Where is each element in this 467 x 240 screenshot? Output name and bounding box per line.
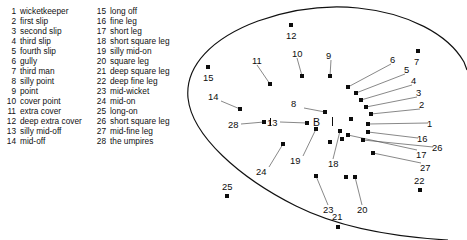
fielder-marker-13 bbox=[305, 121, 309, 125]
legend-item: 10cover point bbox=[3, 96, 82, 106]
leader-line-4 bbox=[361, 85, 412, 100]
legend-item-number: 20 bbox=[93, 56, 106, 66]
position-number-label-3: 3 bbox=[416, 88, 421, 97]
legend-item: 23mid-wicket bbox=[93, 86, 170, 96]
legend-item: 6gully bbox=[3, 56, 82, 66]
legend-item-label: short leg bbox=[106, 26, 142, 36]
position-number-label-8: 8 bbox=[291, 99, 296, 108]
legend-item-label: mid-wicket bbox=[106, 86, 149, 96]
legend-item: 9point bbox=[3, 86, 82, 96]
legend-item: 5fourth slip bbox=[3, 46, 82, 56]
legend-item-number: 9 bbox=[3, 86, 16, 96]
legend-item-number: 2 bbox=[3, 16, 16, 26]
position-number-label-1: 1 bbox=[427, 119, 432, 128]
leader-line-28 bbox=[241, 122, 264, 124]
legend-item: 14mid-off bbox=[3, 136, 82, 146]
legend-item-label: cover point bbox=[16, 96, 61, 106]
legend-item-label: mid-off bbox=[16, 136, 45, 146]
legend-item-label: deep extra cover bbox=[16, 116, 82, 126]
legend-item: 13silly mid-off bbox=[3, 126, 82, 136]
legend-item: 20square leg bbox=[93, 56, 170, 66]
legend-item-label: mid-on bbox=[106, 96, 135, 106]
legend-item-number: 23 bbox=[93, 86, 106, 96]
leader-line-18 bbox=[333, 131, 340, 159]
legend-item-number: 6 bbox=[3, 56, 16, 66]
leader-line-1 bbox=[368, 123, 428, 124]
leader-line-6 bbox=[348, 64, 391, 87]
position-number-label-26: 26 bbox=[432, 143, 442, 152]
cricket-fielding-positions-figure: 1wicketkeeper2first slip3second slip4thi… bbox=[0, 0, 467, 240]
leader-line-5 bbox=[356, 74, 405, 93]
fielder-marker-10 bbox=[300, 74, 304, 78]
position-number-label-27: 27 bbox=[420, 163, 430, 172]
legend-item-number: 22 bbox=[93, 76, 106, 86]
position-number-label-25: 25 bbox=[222, 182, 232, 191]
legend-item: 12deep extra cover bbox=[3, 116, 82, 126]
stumps-icon bbox=[332, 117, 333, 126]
fielder-marker-16 bbox=[366, 130, 370, 134]
legend-item-number: 19 bbox=[93, 46, 106, 56]
position-number-label-19: 19 bbox=[290, 156, 300, 165]
legend-item: 7third man bbox=[3, 66, 82, 76]
position-number-label-17: 17 bbox=[416, 150, 426, 159]
fielder-marker-23 bbox=[314, 174, 318, 178]
position-number-label-18: 18 bbox=[328, 159, 338, 168]
legend-item: 11extra cover bbox=[3, 106, 82, 116]
leader-line-16 bbox=[368, 132, 418, 138]
legend-item-label: third man bbox=[16, 66, 55, 76]
fielder-marker-25 bbox=[225, 194, 229, 198]
legend-item-label: wicketkeeper bbox=[16, 6, 68, 16]
leader-line-19 bbox=[303, 129, 316, 156]
legend-item-number: 24 bbox=[93, 96, 106, 106]
fielder-marker-15 bbox=[206, 65, 210, 69]
legend-item-label: second slip bbox=[16, 26, 62, 36]
legend-item-number: 13 bbox=[3, 126, 16, 136]
leader-line-8 bbox=[304, 108, 325, 112]
fielder-marker-22 bbox=[418, 188, 422, 192]
legend-item-number: 25 bbox=[93, 106, 106, 116]
marker-umpire-bowler-end bbox=[340, 137, 344, 141]
legend-item: 24mid-on bbox=[93, 96, 170, 106]
fielder-marker-24 bbox=[281, 142, 285, 146]
position-number-label-28: 28 bbox=[228, 120, 238, 129]
legend-item-number: 26 bbox=[93, 116, 106, 126]
legend-item-label: fine leg bbox=[106, 16, 137, 26]
legend-item: 2first slip bbox=[3, 16, 82, 26]
legend-item-number: 14 bbox=[3, 136, 16, 146]
legend-item-number: 21 bbox=[93, 66, 106, 76]
fielder-marker-14 bbox=[238, 107, 242, 111]
leader-line-24 bbox=[269, 144, 283, 167]
batsman-label: B bbox=[313, 117, 320, 128]
leader-line-27 bbox=[373, 153, 421, 163]
legend-item-label: silly mid-on bbox=[106, 46, 152, 56]
position-number-label-21: 21 bbox=[332, 212, 342, 221]
legend-item-number: 4 bbox=[3, 36, 16, 46]
legend-item-number: 12 bbox=[3, 116, 16, 126]
legend-item-label: mid-fine leg bbox=[106, 126, 153, 136]
leader-line-20 bbox=[355, 177, 362, 205]
position-number-label-2: 2 bbox=[419, 100, 424, 109]
legend-item: 18short square leg bbox=[93, 36, 170, 46]
legend-item-label: gully bbox=[16, 56, 37, 66]
legend-item-number: 7 bbox=[3, 66, 16, 76]
fielder-marker-27 bbox=[371, 151, 375, 155]
positions-legend: 1wicketkeeper2first slip3second slip4thi… bbox=[0, 6, 185, 156]
legend-item-number: 17 bbox=[93, 26, 106, 36]
fielder-marker-21 bbox=[336, 225, 340, 229]
fielder-marker-6 bbox=[346, 85, 350, 89]
position-number-label-16: 16 bbox=[417, 134, 427, 143]
position-number-label-7: 7 bbox=[414, 57, 419, 66]
position-number-label-20: 20 bbox=[357, 205, 367, 214]
legend-item-label: the umpires bbox=[106, 136, 153, 146]
legend-item: 27mid-fine leg bbox=[93, 126, 170, 136]
legend-item-number: 11 bbox=[3, 106, 16, 116]
leader-line-13 bbox=[280, 122, 307, 123]
legend-item: 25long-on bbox=[93, 106, 170, 116]
fielder-marker-11 bbox=[268, 82, 272, 86]
field-diagram: B 12345678910111213141516171819202122232… bbox=[180, 0, 467, 240]
position-number-label-13: 13 bbox=[267, 118, 277, 127]
legend-item-number: 1 bbox=[3, 6, 16, 16]
position-number-label-23: 23 bbox=[323, 205, 333, 214]
legend-column-left: 1wicketkeeper2first slip3second slip4thi… bbox=[3, 6, 82, 146]
leader-line-2 bbox=[371, 109, 420, 114]
